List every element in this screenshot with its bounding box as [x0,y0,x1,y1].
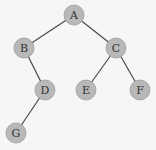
node-label-c: C [112,42,120,55]
node-label-d: D [41,84,50,97]
node-g: G [6,123,26,143]
node-d: D [35,80,55,100]
edges [16,15,140,133]
tree-diagram: A B C D E F G [0,0,156,150]
node-label-f: F [136,84,144,97]
nodes: A B C D E F G [6,5,150,143]
node-a: A [64,5,84,25]
node-label-b: B [20,42,28,55]
node-b: B [14,38,34,58]
node-label-e: E [82,84,90,97]
node-label-a: A [69,9,79,22]
node-e: E [76,80,96,100]
node-c: C [106,38,126,58]
node-f: F [130,80,150,100]
node-label-g: G [12,127,21,140]
